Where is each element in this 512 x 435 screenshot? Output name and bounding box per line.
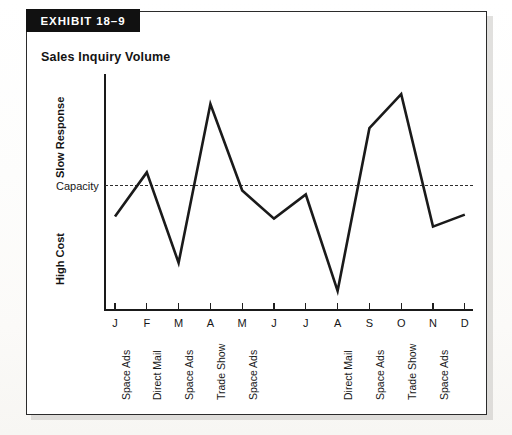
x-axis-month-label: J bbox=[262, 317, 286, 329]
x-axis-tick bbox=[210, 303, 211, 310]
campaign-label: Direct Mail bbox=[342, 350, 354, 400]
campaign-label: Space Ads bbox=[120, 350, 132, 400]
x-axis-tick bbox=[146, 303, 147, 310]
x-axis-month-label: F bbox=[135, 317, 159, 329]
x-axis-tick bbox=[432, 303, 433, 310]
campaign-label: Trade Show bbox=[406, 344, 418, 400]
x-axis-month-label: D bbox=[453, 317, 477, 329]
campaign-label: Trade Show bbox=[215, 344, 227, 400]
x-axis-month-label: O bbox=[389, 317, 413, 329]
x-axis-month-label: J bbox=[103, 317, 127, 329]
x-axis-tick bbox=[337, 303, 338, 310]
campaign-label: Space Ads bbox=[438, 350, 450, 400]
x-axis-tick bbox=[273, 303, 274, 310]
campaign-label: Space Ads bbox=[247, 350, 259, 400]
x-axis-tick bbox=[401, 303, 402, 310]
x-axis-month-label: M bbox=[167, 317, 191, 329]
campaign-label: Direct Mail bbox=[151, 350, 163, 400]
campaign-label: Space Ads bbox=[374, 350, 386, 400]
x-axis-tick bbox=[178, 303, 179, 310]
x-axis-month-label: M bbox=[230, 317, 254, 329]
x-axis-tick bbox=[242, 303, 243, 310]
x-axis-month-label: N bbox=[421, 317, 445, 329]
x-axis-tick bbox=[305, 303, 306, 310]
x-axis-tick bbox=[114, 303, 115, 310]
x-axis-tick bbox=[464, 303, 465, 310]
x-axis-month-label: J bbox=[294, 317, 318, 329]
x-axis-month-label: A bbox=[198, 317, 222, 329]
chart-plot-area: Slow Response Capacity High Cost JFMAMJJ… bbox=[0, 0, 512, 435]
campaign-label: Space Ads bbox=[183, 350, 195, 400]
x-axis-tick bbox=[369, 303, 370, 310]
x-axis-month-label: A bbox=[326, 317, 350, 329]
x-axis-month-label: S bbox=[357, 317, 381, 329]
